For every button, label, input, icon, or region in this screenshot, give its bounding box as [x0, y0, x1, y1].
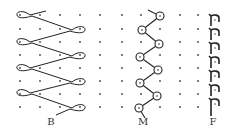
panel-f-label: F	[210, 116, 217, 127]
panel-b-label: B	[47, 116, 54, 127]
lapping-diagram-figure	[0, 0, 234, 140]
panel-m-zigzag-lapping	[135, 10, 164, 118]
panel-f-pillar-lapping	[209, 14, 219, 116]
panel-m-label: M	[138, 116, 148, 127]
needle-point-grid	[19, 14, 199, 108]
panel-b-atlas-lapping	[17, 11, 85, 115]
